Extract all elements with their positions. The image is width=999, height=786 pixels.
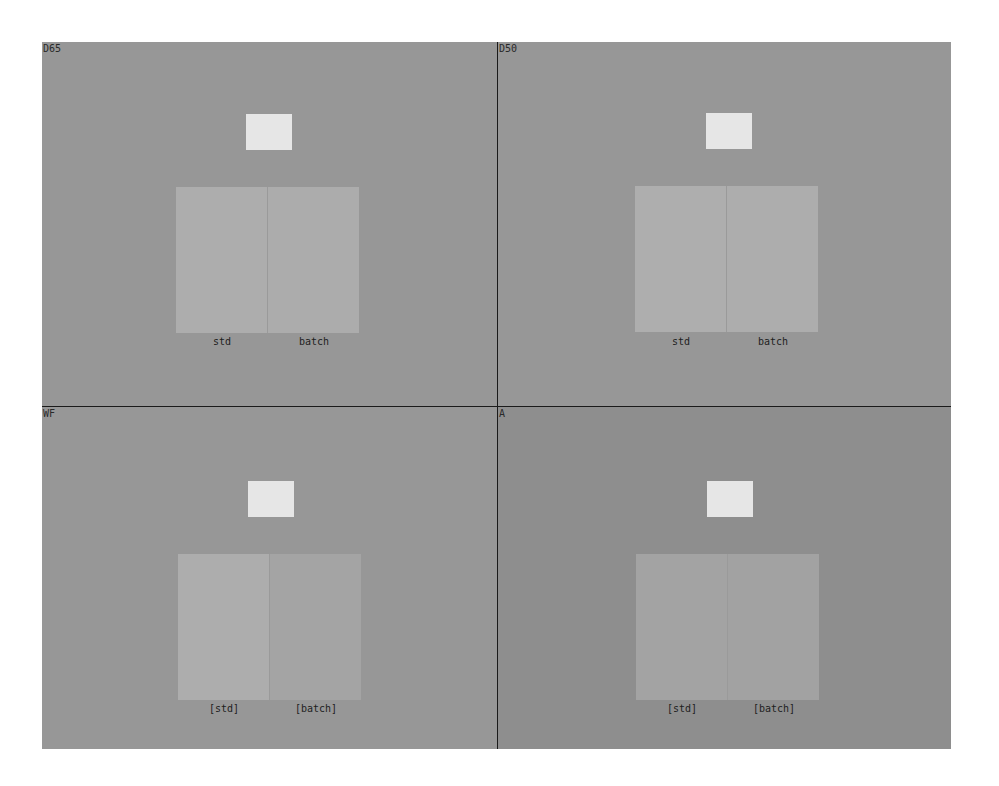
illuminant-viewer: D65 std batch D50 std batch WF [std] [ba… — [42, 42, 951, 749]
vertical-divider — [497, 42, 498, 749]
std-swatch — [635, 186, 727, 332]
batch-caption: [batch] — [753, 703, 795, 714]
batch-swatch — [727, 186, 819, 332]
batch-swatch — [268, 187, 360, 333]
panel-d50: D50 std batch — [498, 42, 951, 406]
panel-wf: WF [std] [batch] — [42, 407, 497, 749]
horizontal-divider — [42, 406, 951, 407]
batch-caption: [batch] — [295, 703, 337, 714]
std-caption: [std] — [209, 703, 239, 714]
std-swatch — [178, 554, 270, 700]
std-swatch — [176, 187, 268, 333]
reference-white-patch — [706, 113, 752, 149]
swatch-pair-d65 — [176, 187, 359, 333]
swatch-pair-d50 — [635, 186, 818, 332]
std-caption: std — [672, 336, 690, 347]
reference-white-patch — [246, 114, 292, 150]
panel-label-d50: D50 — [499, 43, 517, 54]
std-swatch — [636, 554, 728, 700]
panel-d65: D65 std batch — [42, 42, 497, 406]
swatch-pair-a — [636, 554, 819, 700]
reference-white-patch — [248, 481, 294, 517]
panel-label-wf: WF — [43, 408, 55, 419]
std-caption: [std] — [667, 703, 697, 714]
panel-label-a: A — [499, 408, 505, 419]
swatch-pair-wf — [178, 554, 361, 700]
reference-white-patch — [707, 481, 753, 517]
batch-caption: batch — [758, 336, 788, 347]
batch-caption: batch — [299, 336, 329, 347]
panel-a: A [std] [batch] — [498, 407, 951, 749]
batch-swatch — [270, 554, 362, 700]
batch-swatch — [728, 554, 820, 700]
std-caption: std — [213, 336, 231, 347]
panel-label-d65: D65 — [43, 43, 61, 54]
